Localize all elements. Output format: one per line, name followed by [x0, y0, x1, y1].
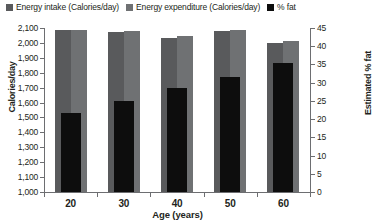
legend-item-percent-fat: % fat	[267, 3, 296, 12]
y-axis-left-tick	[40, 43, 44, 44]
x-axis-tick-label: 40	[157, 198, 197, 209]
y-axis-left-tick-label: 1,000	[0, 188, 38, 197]
x-axis-tick	[97, 193, 98, 197]
y-axis-left-tick	[40, 73, 44, 74]
y-axis-right-tick-label: 5	[317, 170, 341, 179]
y-axis-right-tick-label: 15	[317, 133, 341, 142]
legend-label-energy-intake: Energy intake (Calories/day)	[16, 3, 119, 12]
legend-item-energy-intake: Energy intake (Calories/day)	[6, 3, 119, 12]
y-axis-right-tick-label: 20	[317, 115, 341, 124]
y-axis-right-tick	[311, 64, 315, 65]
y-axis-left-tick	[40, 132, 44, 133]
y-axis-right-tick	[311, 46, 315, 47]
legend-swatch-energy-intake	[6, 4, 13, 11]
legend-swatch-energy-expenditure	[126, 4, 133, 11]
x-axis-tick	[44, 193, 45, 197]
y-axis-right-tick-label: 35	[317, 60, 341, 69]
bar-percent-fat	[273, 63, 293, 192]
x-axis-tick	[204, 193, 205, 197]
bar-percent-fat	[114, 101, 134, 192]
y-axis-left-tick-label: 1,200	[0, 158, 38, 167]
y-axis-right-tick	[311, 156, 315, 157]
chart-legend: Energy intake (Calories/day) Energy expe…	[0, 0, 365, 15]
y-axis-left-tick	[40, 88, 44, 89]
y-axis-left-tick	[40, 147, 44, 148]
y-axis-left-tick-label: 1,500	[0, 113, 38, 122]
y-axis-right-title: Estimated % fat	[363, 33, 373, 133]
x-axis-tick	[150, 193, 151, 197]
legend-label-percent-fat: % fat	[277, 3, 296, 12]
y-axis-left-tick	[40, 103, 44, 104]
y-axis-right-tick-label: 45	[317, 24, 341, 33]
y-axis-left-tick-label: 1,600	[0, 99, 38, 108]
x-axis-tick-label: 20	[51, 198, 91, 209]
y-axis-left-title: Calories/day	[7, 42, 17, 132]
x-axis-tick	[310, 193, 311, 197]
y-axis-left-line	[44, 28, 45, 193]
y-axis-left-tick	[40, 28, 44, 29]
x-axis-tick-label: 50	[210, 198, 250, 209]
y-axis-left-tick-label: 1,700	[0, 84, 38, 93]
y-axis-right-tick	[311, 192, 315, 193]
y-axis-right-tick	[311, 137, 315, 138]
legend-swatch-percent-fat	[267, 4, 274, 11]
y-axis-right-tick	[311, 101, 315, 102]
y-axis-left-tick-label: 1,800	[0, 69, 38, 78]
y-axis-left-tick-label: 2,000	[0, 39, 38, 48]
y-axis-right-tick-label: 40	[317, 42, 341, 51]
x-axis-title: Age (years)	[44, 209, 311, 220]
y-axis-right-tick-label: 25	[317, 97, 341, 106]
x-axis-line	[44, 192, 311, 193]
y-axis-right-tick	[311, 174, 315, 175]
legend-label-energy-expenditure: Energy expenditure (Calories/day)	[136, 3, 260, 12]
x-axis-tick-label: 30	[104, 198, 144, 209]
y-axis-left-tick	[40, 177, 44, 178]
y-axis-right-tick	[311, 83, 315, 84]
y-axis-left-tick	[40, 117, 44, 118]
x-axis-tick	[257, 193, 258, 197]
bar-percent-fat	[220, 77, 240, 192]
y-axis-right-tick-label: 30	[317, 79, 341, 88]
x-axis-tick-label: 60	[263, 198, 303, 209]
y-axis-left-tick-label: 1,400	[0, 128, 38, 137]
legend-item-energy-expenditure: Energy expenditure (Calories/day)	[126, 3, 260, 12]
y-axis-left-tick-label: 1,300	[0, 143, 38, 152]
y-axis-right-tick	[311, 119, 315, 120]
y-axis-right-line	[310, 28, 311, 193]
y-axis-left-tick-label: 2,100	[0, 24, 38, 33]
y-axis-right-tick	[311, 28, 315, 29]
bar-percent-fat	[61, 113, 81, 192]
y-axis-left-tick	[40, 162, 44, 163]
y-axis-left-tick	[40, 58, 44, 59]
y-axis-right-tick-label: 0	[317, 188, 341, 197]
y-axis-left-tick-label: 1,100	[0, 173, 38, 182]
y-axis-left-tick-label: 1,900	[0, 54, 38, 63]
bar-percent-fat	[167, 88, 187, 192]
y-axis-right-tick-label: 10	[317, 152, 341, 161]
